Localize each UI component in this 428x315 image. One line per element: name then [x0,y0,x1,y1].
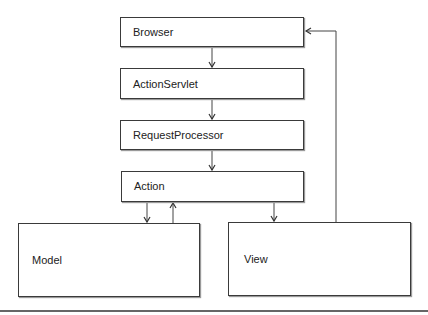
browser-label: Browser [133,26,173,38]
arrow-view-to-browser [306,31,336,222]
actionservlet-label: ActionServlet [133,78,198,90]
requestprocessor-label: RequestProcessor [133,129,224,141]
model-box: Model [18,223,200,297]
view-box: View [228,222,411,296]
view-label: View [244,253,268,265]
action-box: Action [121,171,304,202]
actionservlet-box: ActionServlet [120,68,304,99]
requestprocessor-box: RequestProcessor [120,120,304,150]
model-label: Model [32,254,62,266]
browser-box: Browser [120,17,304,47]
action-label: Action [134,180,165,192]
